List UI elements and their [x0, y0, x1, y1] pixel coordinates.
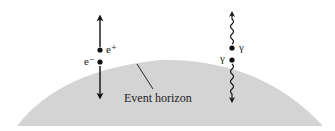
- diagram-canvas: Event horizon e⁺ e⁻ γ γ: [0, 0, 335, 131]
- electron-label: e⁻: [84, 55, 95, 67]
- photon-outgoing-label: γ: [238, 41, 244, 53]
- photon-infalling-dot: [229, 57, 234, 62]
- positron-label: e⁺: [106, 43, 117, 55]
- event-horizon-label: Event horizon: [124, 91, 192, 105]
- photon-outgoing-wave: [231, 14, 234, 44]
- electron-dot: [97, 59, 102, 64]
- positron-dot: [97, 47, 102, 52]
- photon-infalling-label: γ: [219, 52, 225, 64]
- photon-outgoing-dot: [229, 45, 234, 50]
